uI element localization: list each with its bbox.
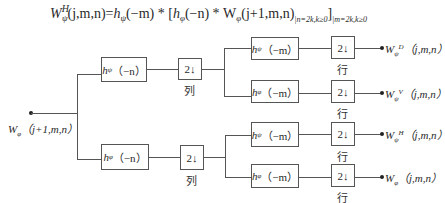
wire-r4-b [298, 177, 331, 178]
input-label-main: W [8, 123, 17, 135]
wire-bot-filter-to-ds [148, 157, 180, 158]
wire-split2-bot [225, 135, 226, 178]
input-label: Wφ（j+1,m,n） [8, 120, 78, 138]
output-sub: ψ [394, 136, 398, 144]
wire-ds-top-to-split [202, 69, 224, 70]
downsample-col-bottom: 2↓ [180, 145, 204, 170]
down-arrow-icon: ↓ [343, 86, 349, 98]
wire-r1-c [354, 48, 381, 49]
caption-row-4: 行 [337, 189, 348, 203]
wire-r3-b [298, 134, 331, 135]
formula-h2: h [173, 6, 180, 21]
wire-r4-c [354, 177, 381, 178]
formula-lhs: W [50, 6, 62, 21]
downsample-row-4: 2↓ [331, 164, 355, 187]
filter-m-1: hψ（−m） [251, 37, 299, 60]
wire-r1-a [224, 48, 251, 49]
wire-r3-c [354, 134, 381, 135]
output-main: W [385, 129, 394, 141]
wire-r4-a [225, 177, 251, 178]
filter-args: （−n） [113, 149, 147, 165]
wire-r3-a [225, 135, 251, 136]
output-args: （j,m,n） [398, 172, 442, 184]
down-arrow-icon: ↓ [343, 170, 349, 182]
formula-eq: = [106, 6, 114, 21]
filter-m-4: hφ（−m） [251, 164, 299, 188]
output-dot-4 [380, 175, 384, 179]
wire-ds-bot-to-split [204, 157, 225, 158]
caption-col-bottom: 列 [186, 172, 197, 188]
wire-r1-b [298, 48, 331, 49]
wire-top-to-filter [77, 74, 101, 75]
down-arrow-icon: ↓ [343, 128, 349, 140]
output-label-4: Wφ（j,m,n） [385, 169, 442, 187]
wire-top-filter-to-ds [146, 69, 178, 70]
filter-args: （−m） [262, 127, 299, 143]
output-label-3: WψH（j,m,n） [385, 126, 445, 144]
filter-m-2: hφ（−m） [251, 80, 299, 103]
wire-split1 [77, 74, 78, 160]
caption-row-2: 行 [337, 105, 348, 121]
filter-args: （−n） [112, 62, 146, 78]
filter-args: （−m） [262, 41, 299, 57]
wire-split2-top [224, 48, 225, 97]
downsample-row-1: 2↓ [331, 36, 355, 59]
filter-row-bottom: hφ（−n） [101, 144, 149, 170]
input-label-args: （j+1,m,n） [21, 123, 78, 135]
output-dot-1 [380, 46, 384, 50]
filter-row-top: hψ（−n） [101, 57, 147, 82]
down-arrow-icon: ↓ [343, 42, 349, 54]
down-arrow-icon: ↓ [192, 152, 198, 164]
output-label-2: WψV（j,m,n） [385, 85, 445, 103]
formula-h1-args: (−m) * [ [126, 6, 173, 21]
downsample-row-3: 2↓ [331, 122, 355, 146]
output-label-1: WψD（j,m,n） [385, 40, 445, 58]
output-args: （j,m,n） [404, 43, 445, 55]
output-args: （j,m,n） [403, 88, 445, 100]
formula-h1: h [114, 6, 121, 21]
downsample-col-top: 2↓ [178, 58, 202, 80]
formula-cond1: |n=2k,k≥0 [294, 15, 327, 24]
output-main: W [385, 88, 394, 100]
formula-h2-args: (−n) * W [185, 6, 236, 21]
filter-m-3: hψ（−m） [251, 122, 299, 147]
downsample-row-2: 2↓ [331, 80, 355, 103]
caption-col-top: 列 [184, 82, 195, 98]
output-main: W [385, 172, 394, 184]
formula: WHψ(j,m,n)=hψ(−m) * [hφ(−n) * Wφ(j+1,m,n… [50, 3, 367, 24]
wire-r2-c [354, 93, 381, 94]
output-args: （j,m,n） [404, 129, 445, 141]
formula-w-args: (j+1,m,n) [241, 6, 294, 21]
formula-lhs-args: (j,m,n) [68, 6, 106, 21]
down-arrow-icon: ↓ [190, 63, 196, 75]
caption-row-3: 行 [337, 148, 348, 164]
wire-input [31, 113, 77, 114]
wire-bot-to-filter [77, 159, 101, 160]
wire-r2-a [224, 96, 251, 97]
filter-args: （−m） [261, 168, 298, 184]
output-sub: ψ [394, 95, 398, 103]
output-dot-3 [380, 132, 384, 136]
output-main: W [385, 43, 394, 55]
filter-args: （−m） [261, 84, 298, 100]
formula-cond2: |m=2k,k≥0 [332, 15, 367, 24]
wire-r2-b [298, 93, 331, 94]
output-dot-2 [380, 91, 384, 95]
output-sub: ψ [394, 50, 398, 58]
caption-row-1: 行 [337, 61, 348, 77]
